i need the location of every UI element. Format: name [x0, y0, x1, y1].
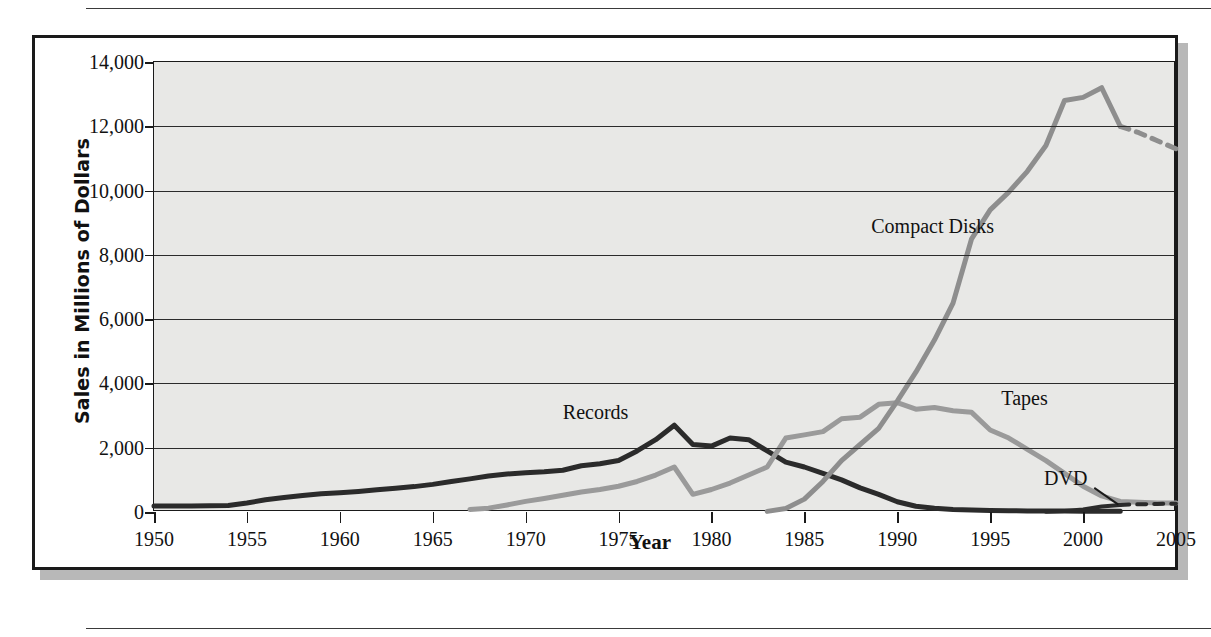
x-tick-mark: [711, 512, 713, 523]
gridline: [154, 383, 1174, 384]
x-tick-mark: [1083, 512, 1085, 523]
line-chart: Sales in Millions of Dollars Year 02,000…: [35, 38, 1175, 567]
x-tick-mark: [526, 512, 528, 523]
x-tick-label: 1965: [388, 528, 478, 551]
series-line: [154, 425, 1120, 511]
x-tick-mark: [247, 512, 249, 523]
figure-frame: Sales in Millions of Dollars Year 02,000…: [32, 35, 1178, 570]
y-tick-mark: [145, 126, 154, 128]
gridline: [154, 255, 1174, 256]
y-tick-mark: [145, 255, 154, 257]
y-tick-mark: [145, 448, 154, 450]
x-tick-mark: [433, 512, 435, 523]
gridline: [154, 126, 1174, 127]
x-tick-label: 2005: [1131, 528, 1211, 551]
plot-inner: 02,0004,0006,0008,00010,00012,00014,0001…: [154, 62, 1174, 510]
y-tick-label: 8,000: [34, 244, 144, 267]
y-tick-mark: [145, 191, 154, 193]
gridline: [154, 448, 1174, 449]
y-tick-mark: [145, 383, 154, 385]
x-tick-label: 1985: [759, 528, 849, 551]
plot-area: 02,0004,0006,0008,00010,00012,00014,0001…: [153, 61, 1175, 511]
x-tick-label: 1950: [109, 528, 199, 551]
gridline: [154, 191, 1174, 192]
x-tick-mark: [619, 512, 621, 523]
y-tick-mark: [145, 319, 154, 321]
y-tick-mark: [145, 62, 154, 64]
y-tick-label: 4,000: [34, 372, 144, 395]
page-bottom-rule: [86, 628, 1211, 629]
x-tick-mark: [897, 512, 899, 523]
series-label-records: Records: [563, 401, 629, 424]
y-tick-mark: [145, 512, 154, 514]
y-tick-label: 12,000: [34, 115, 144, 138]
y-tick-label: 0: [34, 501, 144, 524]
series-label-compact-disks: Compact Disks: [871, 215, 994, 238]
x-tick-mark: [1176, 512, 1178, 523]
y-tick-label: 10,000: [34, 180, 144, 203]
page-top-rule: [86, 8, 1211, 9]
y-tick-label: 14,000: [34, 51, 144, 74]
x-tick-label: 1995: [945, 528, 1035, 551]
x-tick-label: 1960: [295, 528, 385, 551]
x-tick-mark: [990, 512, 992, 523]
x-tick-mark: [340, 512, 342, 523]
x-tick-label: 1970: [481, 528, 571, 551]
series-label-dvd: DVD: [1044, 467, 1087, 490]
x-tick-mark: [804, 512, 806, 523]
x-tick-label: 1990: [852, 528, 942, 551]
y-tick-label: 6,000: [34, 308, 144, 331]
series-label-tapes: Tapes: [1001, 387, 1047, 410]
gridline: [154, 319, 1174, 320]
x-tick-label: 1955: [202, 528, 292, 551]
series-line: [1120, 126, 1176, 149]
x-tick-label: 1975: [574, 528, 664, 551]
y-tick-label: 2,000: [34, 437, 144, 460]
x-tick-label: 1980: [666, 528, 756, 551]
series-lines: [154, 62, 1176, 512]
x-tick-label: 2000: [1038, 528, 1128, 551]
x-tick-mark: [154, 512, 156, 523]
